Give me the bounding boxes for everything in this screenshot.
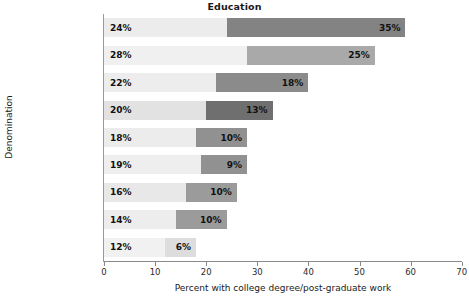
chart-row: Muslim14%10% [0, 210, 469, 229]
x-tick-label-70: 70 [456, 267, 467, 277]
x-tick-label-60: 60 [405, 267, 416, 277]
chart-row: Mormon18%10% [0, 128, 469, 147]
x-axis-line [104, 261, 462, 262]
bar-value-label: 16% [110, 187, 132, 197]
chart-row: Jewish24%35% [0, 18, 469, 37]
bar-value-label: 20% [110, 105, 132, 115]
x-tick-50 [360, 262, 361, 266]
bar-value-label: 24% [110, 23, 132, 33]
bar-value-label: 19% [110, 160, 132, 170]
bar-value-label: 9% [227, 160, 242, 170]
bar-value-label: 6% [176, 242, 191, 252]
bar-segment-postgrad-jewish: 35% [227, 18, 406, 37]
bar-value-label: 22% [110, 78, 132, 88]
bar-value-label: 14% [110, 215, 132, 225]
bar-segment-postgrad-roman-catholic: 10% [186, 183, 237, 202]
bar-value-label: 35% [379, 23, 401, 33]
bar-segment-college-muslim: 14% [104, 210, 176, 229]
chart-row: Presbyterian22%18% [0, 73, 469, 92]
chart-row: Lutheran19%9% [0, 155, 469, 174]
bar-value-label: 18% [110, 133, 132, 143]
bar-value-label: 12% [110, 242, 132, 252]
education-bar-chart: Education Denomination Baptist12%6%Musli… [0, 0, 469, 300]
x-tick-20 [206, 262, 207, 266]
bar-segment-college-presbyterian: 22% [104, 73, 216, 92]
bar-value-label: 10% [200, 215, 222, 225]
x-tick-label-40: 40 [303, 267, 314, 277]
bar-segment-postgrad-methodist: 13% [206, 101, 272, 120]
chart-row: Roman Catholic16%10% [0, 183, 469, 202]
x-tick-30 [257, 262, 258, 266]
bar-segment-postgrad-baptist: 6% [165, 238, 196, 257]
x-tick-0 [104, 262, 105, 266]
chart-row: Episcopalian28%25% [0, 46, 469, 65]
bar-segment-college-roman-catholic: 16% [104, 183, 186, 202]
bar-segment-postgrad-lutheran: 9% [201, 155, 247, 174]
bar-segment-postgrad-muslim: 10% [176, 210, 227, 229]
x-tick-40 [308, 262, 309, 266]
bar-segment-college-jewish: 24% [104, 18, 227, 37]
bar-value-label: 28% [110, 50, 132, 60]
chart-row: Methodist20%13% [0, 101, 469, 120]
bar-value-label: 10% [210, 187, 232, 197]
x-tick-label-0: 0 [101, 267, 106, 277]
bar-value-label: 18% [282, 78, 304, 88]
bar-segment-college-baptist: 12% [104, 238, 165, 257]
x-tick-label-10: 10 [150, 267, 161, 277]
bar-segment-postgrad-episcopalian: 25% [247, 46, 375, 65]
bar-segment-college-mormon: 18% [104, 128, 196, 147]
x-tick-label-50: 50 [354, 267, 365, 277]
bar-segment-college-lutheran: 19% [104, 155, 201, 174]
chart-title: Education [0, 1, 469, 12]
bar-value-label: 13% [246, 105, 268, 115]
x-tick-60 [411, 262, 412, 266]
bar-value-label: 10% [221, 133, 243, 143]
x-tick-70 [462, 262, 463, 266]
bar-value-label: 25% [348, 50, 370, 60]
x-tick-label-20: 20 [201, 267, 212, 277]
chart-row: Baptist12%6% [0, 238, 469, 257]
bar-segment-college-episcopalian: 28% [104, 46, 247, 65]
x-axis-title: Percent with college degree/post-graduat… [104, 283, 462, 293]
bar-segment-postgrad-mormon: 10% [196, 128, 247, 147]
bar-segment-postgrad-presbyterian: 18% [216, 73, 308, 92]
bar-segment-college-methodist: 20% [104, 101, 206, 120]
x-tick-label-30: 30 [252, 267, 263, 277]
x-tick-10 [155, 262, 156, 266]
